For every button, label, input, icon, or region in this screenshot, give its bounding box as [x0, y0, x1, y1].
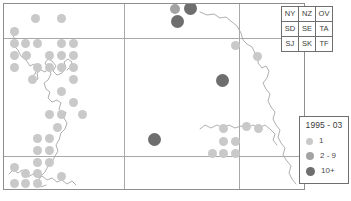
grid-key-cell-sd: SD	[282, 22, 299, 37]
record-dot	[208, 149, 217, 158]
record-dot	[69, 39, 78, 48]
record-dot	[171, 15, 184, 28]
grid-key-cell-ta: TA	[316, 22, 333, 37]
legend-item: 1	[300, 134, 348, 149]
map-canvas	[4, 4, 304, 189]
grid-key-row: SJSKTF	[282, 37, 333, 52]
figure-caption	[0, 193, 351, 201]
record-dot	[21, 179, 30, 188]
record-dot	[33, 39, 42, 48]
record-dot	[21, 39, 30, 48]
record-dot	[219, 137, 228, 146]
grid-key-cell-sk: SK	[299, 37, 316, 52]
grid-key-row: SDSETA	[282, 22, 333, 37]
record-dot	[253, 52, 262, 61]
record-dot	[231, 149, 240, 158]
record-dot	[219, 124, 228, 133]
record-dot	[10, 51, 19, 60]
graticule-horizontal-1	[4, 156, 304, 157]
record-dot	[219, 149, 228, 158]
grid-key-cell-ov: OV	[316, 7, 333, 22]
record-dot	[45, 110, 54, 119]
record-dot	[21, 169, 30, 178]
legend-item: 10+	[300, 164, 348, 179]
record-dot	[10, 179, 19, 188]
legend-dot-icon	[306, 138, 313, 145]
graticule-vertical-0	[124, 4, 125, 189]
record-dot	[33, 169, 42, 178]
record-dot	[69, 98, 78, 107]
record-dot	[10, 63, 19, 72]
record-dot	[57, 110, 66, 119]
grid-key-cell-tf: TF	[316, 37, 333, 52]
grid-square-key: NYNZOVSDSETASJSKTF	[281, 6, 333, 52]
record-dot	[69, 63, 78, 72]
legend-title: 1995 - 03	[300, 121, 348, 130]
record-dot	[216, 74, 229, 87]
coastline-segment-2	[24, 172, 76, 185]
record-dot	[45, 63, 54, 72]
grid-key-cell-sj: SJ	[282, 37, 299, 52]
record-dot	[33, 63, 42, 72]
map-frame	[3, 3, 305, 190]
record-dot	[231, 137, 240, 146]
legend-item-label: 2 - 9	[320, 152, 336, 160]
graticule-vertical-1	[239, 4, 240, 189]
record-dot	[45, 134, 54, 143]
record-dot	[254, 124, 263, 133]
record-dot	[10, 27, 19, 36]
record-dot	[69, 75, 78, 84]
legend-dot-icon	[306, 167, 315, 176]
record-dot	[31, 14, 40, 23]
record-dot	[45, 146, 54, 155]
legend-item-label: 1	[319, 137, 323, 145]
record-dot	[170, 4, 180, 14]
record-dot	[57, 51, 66, 60]
record-dot	[242, 122, 251, 131]
record-dot	[33, 179, 42, 188]
grid-key-row: NYNZOV	[282, 7, 333, 22]
grid-key-cell-se: SE	[299, 22, 316, 37]
record-dot	[148, 133, 161, 146]
record-dot	[57, 87, 66, 96]
legend-item: 2 - 9	[300, 149, 348, 164]
record-dot	[22, 51, 31, 60]
record-dot	[33, 134, 42, 143]
record-dot	[45, 51, 54, 60]
grid-key-cell-nz: NZ	[299, 7, 316, 22]
map-legend: 1995 - 03 12 - 910+	[299, 116, 349, 184]
record-dot	[231, 41, 240, 50]
record-dot	[53, 123, 62, 132]
record-dot	[45, 158, 54, 167]
legend-rows: 12 - 910+	[300, 134, 348, 179]
distribution-map-figure: NYNZOVSDSETASJSKTF 1995 - 03 12 - 910+	[0, 0, 351, 201]
record-dot	[184, 3, 197, 15]
record-dot	[57, 172, 66, 181]
graticule-horizontal-0	[4, 38, 304, 39]
record-dot	[69, 51, 78, 60]
record-dot	[10, 39, 19, 48]
record-dot	[33, 146, 42, 155]
record-dot	[33, 158, 42, 167]
grid-key-cell-ny: NY	[282, 7, 299, 22]
record-dot	[28, 75, 37, 84]
legend-dot-icon	[306, 152, 314, 160]
record-dot	[57, 63, 66, 72]
record-dot	[57, 14, 66, 23]
record-dot	[57, 39, 66, 48]
record-dot	[78, 110, 87, 119]
record-dot	[10, 163, 19, 172]
legend-item-label: 10+	[321, 167, 335, 175]
